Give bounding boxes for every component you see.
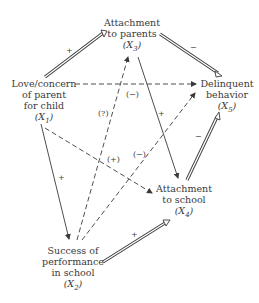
edge-x1-x2 — [41, 124, 69, 239]
edge-x3-x5 — [160, 34, 222, 77]
sign-x1-x4: (+) — [107, 155, 120, 164]
node-x5-delinquent-behavior: Delinquent behavior (X5) — [196, 78, 258, 116]
node-x4-line2: to school — [152, 194, 216, 205]
node-x2-variable: (X2) — [40, 278, 106, 294]
sign-x1-x5: (−) — [126, 90, 139, 99]
edge-x4-x5 — [187, 112, 220, 180]
node-x3-attachment-to-parents: Attachment to parents (X3) — [96, 17, 168, 55]
node-x5-variable: (X5) — [196, 100, 258, 116]
edge-x1-x4 — [45, 128, 152, 193]
sign-x3-x5: − — [190, 43, 197, 52]
node-x4-attachment-to-school: Attachment to school (X4) — [152, 183, 216, 221]
node-x1-line1: Love/concern — [4, 78, 84, 89]
node-x1-variable: (X1) — [4, 111, 84, 127]
sign-x2-x3: (?) — [98, 109, 109, 118]
node-x3-variable: (X3) — [96, 39, 168, 55]
node-x2-success-in-school: Success of performance in school (X2) — [40, 245, 106, 294]
edge-x2-x4 — [103, 220, 170, 262]
node-x4-variable: (X4) — [152, 205, 216, 221]
node-x1-line2: of parent — [4, 89, 84, 100]
node-x1-love-concern: Love/concern of parent for child (X1) — [4, 78, 84, 127]
sign-x2-x5: (−) — [133, 150, 146, 159]
node-x2-line2: performance — [40, 256, 106, 267]
node-x1-line3: for child — [4, 100, 84, 111]
node-x5-line1: Delinquent — [196, 78, 258, 89]
node-x4-line1: Attachment — [152, 183, 216, 194]
node-x5-line2: behavior — [196, 89, 258, 100]
node-x3-line1: Attachment — [96, 17, 168, 28]
sign-x2-x4: + — [131, 230, 138, 239]
sign-x1-x2: + — [58, 173, 65, 182]
causal-diagram: Attachment to parents (X3) Love/concern … — [0, 0, 259, 303]
node-x3-line2: to parents — [96, 28, 168, 39]
sign-x3-x4: + — [158, 109, 165, 118]
node-x2-line3: in school — [40, 267, 106, 278]
sign-x1-x3: + — [66, 46, 73, 55]
node-x2-line1: Success of — [40, 245, 106, 256]
sign-x4-x5: − — [195, 132, 202, 141]
